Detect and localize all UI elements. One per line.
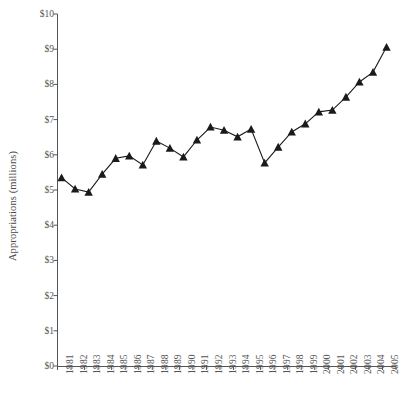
data-markers: [57, 43, 390, 196]
y-tick-label: $1: [24, 327, 54, 336]
appropriations-line-chart: $10 $9 $8 $7 $6 $5 $4 $3 $2 $1 $0 Approp…: [0, 0, 411, 412]
data-point-marker: [206, 123, 214, 131]
x-tick-label: 1995: [255, 354, 265, 374]
x-tick-label: 1996: [268, 354, 278, 374]
x-tick-label: 1982: [79, 354, 89, 374]
y-tick-label: $8: [24, 80, 54, 89]
x-tick-label: 1990: [187, 354, 197, 374]
y-tick-label: $7: [24, 116, 54, 125]
data-point-marker: [152, 137, 160, 145]
data-point-marker: [288, 128, 296, 136]
x-tick-label: 1984: [106, 354, 116, 374]
axes: [58, 14, 397, 367]
y-tick-label: $9: [24, 45, 54, 54]
data-point-marker: [139, 161, 147, 169]
x-tick-label: 2001: [336, 354, 346, 374]
x-tick-label: 1997: [282, 354, 292, 374]
data-point-marker: [166, 144, 174, 152]
y-tick-label: $0: [24, 362, 54, 371]
x-tick-label: 2000: [322, 354, 332, 374]
x-tick-label: 1983: [92, 354, 102, 374]
x-tick-label: 1988: [160, 354, 170, 374]
x-tick-label: 2003: [363, 354, 373, 374]
x-tick-label: 1987: [146, 354, 156, 374]
data-point-marker: [125, 152, 133, 160]
y-axis-title: Appropriations (millions): [0, 0, 26, 412]
y-tick-label: $2: [24, 292, 54, 301]
x-tick-label: 2004: [376, 354, 386, 374]
data-point-marker: [233, 133, 241, 141]
x-tick-label: 1994: [241, 354, 251, 374]
plot-area: [0, 0, 411, 412]
x-tick-label: 1981: [65, 354, 75, 374]
data-point-marker: [369, 68, 377, 76]
x-tick-label: 1985: [119, 354, 129, 374]
y-tick-label: $4: [24, 221, 54, 230]
x-tick-label: 2005: [390, 354, 400, 374]
y-tick-label: $6: [24, 151, 54, 160]
x-tick-label: 1993: [228, 354, 238, 374]
data-point-marker: [57, 173, 65, 181]
data-point-marker: [382, 43, 390, 51]
x-tick-label: 1992: [214, 354, 224, 374]
x-tick-label: 1991: [200, 354, 210, 374]
x-tick-label: 1989: [173, 354, 183, 374]
y-tick-label: $3: [24, 256, 54, 265]
y-axis-ticks: [54, 14, 58, 366]
data-point-marker: [355, 78, 363, 86]
x-tick-label: 1998: [295, 354, 305, 374]
y-tick-label: $5: [24, 186, 54, 195]
y-tick-label: $10: [24, 10, 54, 19]
data-point-marker: [247, 125, 255, 133]
data-line: [62, 47, 387, 192]
x-tick-label: 1999: [309, 354, 319, 374]
x-tick-label: 1986: [133, 354, 143, 374]
x-tick-label: 2002: [349, 354, 359, 374]
